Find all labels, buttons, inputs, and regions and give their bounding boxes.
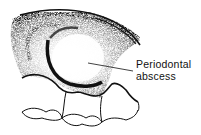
label-line-2: abscess bbox=[136, 71, 191, 83]
teeth bbox=[22, 92, 139, 126]
abscess-label: Periodontal abscess bbox=[136, 59, 191, 82]
label-line-1: Periodontal bbox=[136, 59, 191, 71]
abscess-cavity bbox=[52, 34, 104, 82]
diagram-canvas: Periodontal abscess bbox=[0, 0, 201, 135]
